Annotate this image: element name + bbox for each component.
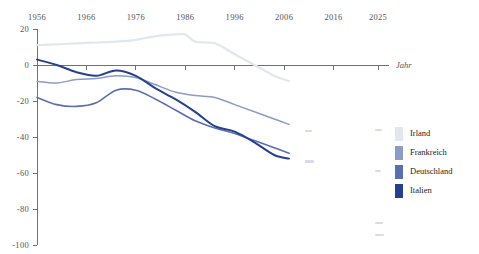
- x-tick-label: 2006: [275, 12, 293, 22]
- legend-item[interactable]: Frankreich: [395, 144, 479, 161]
- line-chart: 200-20-40-60-80-100 19561966197619861996…: [0, 0, 479, 254]
- legend-swatch: [395, 146, 403, 160]
- x-tick-label: 2025: [369, 12, 387, 22]
- legend-swatch: [395, 165, 403, 179]
- plot-artifact-mark: [375, 170, 381, 172]
- x-tick-label: 1966: [77, 12, 95, 22]
- legend-swatch: [395, 127, 403, 141]
- series-line-frankreich: [37, 76, 289, 125]
- series-group: [37, 34, 289, 159]
- y-tick-label: -60: [17, 168, 29, 178]
- series-line-italien: [37, 60, 289, 159]
- plot-artifact-mark: [375, 129, 382, 131]
- series-line-deutschland: [37, 89, 289, 153]
- y-tick-label: 0: [24, 60, 29, 70]
- y-tick-label: -20: [17, 96, 29, 106]
- x-tick-labels: 19561966197619861996200620162025: [28, 12, 387, 22]
- y-axis: 200-20-40-60-80-100: [12, 24, 37, 250]
- x-axis: [37, 65, 389, 70]
- y-tick-group: 200-20-40-60-80-100: [12, 24, 37, 250]
- x-tick-label: 1956: [28, 12, 46, 22]
- x-axis-title: Jahr: [396, 60, 412, 70]
- legend-label: Irland: [410, 129, 430, 138]
- legend-label: Italien: [410, 186, 432, 195]
- plot-artifact-mark: [375, 222, 383, 224]
- x-tick-label: 1996: [226, 12, 244, 22]
- x-tick-label: 2016: [324, 12, 342, 22]
- legend-label: Deutschland: [410, 167, 453, 176]
- legend-swatch: [395, 184, 403, 198]
- legend-label: Frankreich: [410, 148, 447, 157]
- y-tick-label: 20: [20, 24, 29, 34]
- x-tick-label: 1976: [127, 12, 145, 22]
- y-tick-label: -80: [17, 204, 29, 214]
- legend-item[interactable]: Deutschland: [395, 163, 479, 180]
- plot-artifact-mark: [305, 160, 314, 163]
- x-tick-group: [86, 65, 378, 70]
- x-tick-label: 1986: [176, 12, 194, 22]
- legend-item[interactable]: Irland: [395, 125, 479, 142]
- y-tick-label: -40: [17, 132, 29, 142]
- series-line-irland: [37, 34, 289, 81]
- chart-legend: IrlandFrankreichDeutschlandItalien: [395, 125, 479, 201]
- y-tick-label: -100: [12, 240, 29, 250]
- legend-item[interactable]: Italien: [395, 182, 479, 199]
- plot-artifact-mark: [305, 130, 312, 132]
- plot-artifact-mark: [375, 234, 384, 236]
